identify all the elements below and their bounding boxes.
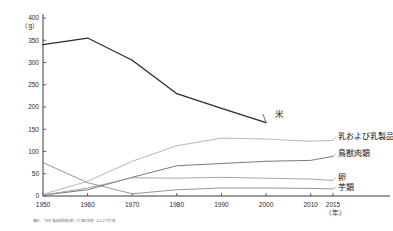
series-line-1 — [43, 138, 333, 194]
series-label-2: 鳥獣肉類 — [338, 148, 370, 158]
x-tick-label: 1970 — [125, 201, 140, 208]
x-tick-label: 2015 — [326, 201, 341, 208]
x-axis-year-label: （年） — [325, 208, 346, 217]
y-tick-label: 350 — [28, 37, 39, 44]
series-label-0: 米 — [275, 109, 284, 119]
series-leader-2 — [333, 154, 336, 157]
x-tick-label: 1960 — [80, 201, 95, 208]
series-leader-4 — [333, 187, 336, 189]
x-tick-label: 1950 — [36, 201, 51, 208]
line-chart: 050100150200250300350400（g）1950196019701… — [0, 0, 393, 231]
source-note: 資料：「日本食品標準成分表」（文部科学省）などより作成 — [33, 218, 115, 223]
y-tick-label: 400 — [28, 14, 39, 21]
y-tick-label: 300 — [28, 59, 39, 66]
y-tick-label: 250 — [28, 81, 39, 88]
y-tick-label: 150 — [28, 126, 39, 133]
y-tick-label: 0 — [35, 192, 39, 199]
series-label-4: 芋類 — [338, 182, 354, 192]
y-axis-unit-label: （g） — [21, 22, 39, 30]
x-tick-label: 2010 — [303, 201, 318, 208]
chart-container: 050100150200250300350400（g）1950196019701… — [0, 0, 393, 231]
x-tick-label: 2000 — [259, 201, 274, 208]
y-tick-label: 100 — [28, 148, 39, 155]
x-tick-label: 1990 — [214, 201, 229, 208]
series-label-3: 卵 — [338, 172, 346, 182]
series-line-0 — [43, 38, 266, 123]
series-leader-1 — [333, 136, 336, 140]
series-label-1: 乳および乳製品 — [338, 131, 393, 141]
y-tick-label: 50 — [32, 170, 40, 177]
y-tick-label: 200 — [28, 103, 39, 110]
x-tick-label: 1980 — [170, 201, 185, 208]
series-line-3 — [43, 177, 333, 195]
series-leader-3 — [333, 177, 336, 180]
